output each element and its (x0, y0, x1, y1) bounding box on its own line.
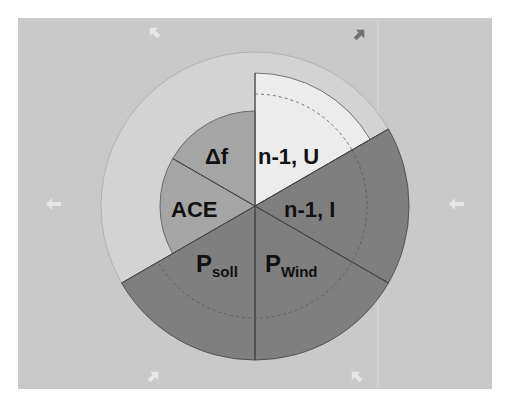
label-n1-u: n-1, U (258, 144, 319, 169)
sector-wheel-diagram: Δf n-1, U ACE n-1, I Psoll PWind (0, 0, 511, 403)
label-n1-i: n-1, I (284, 197, 335, 222)
label-ace: ACE (171, 197, 217, 222)
label-delta-f: Δf (205, 144, 229, 169)
